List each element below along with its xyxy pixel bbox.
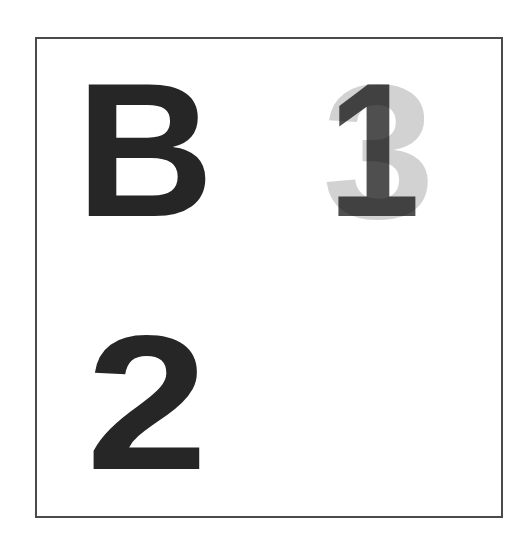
glyph-b: B xyxy=(76,42,214,257)
glyph-1: 1 xyxy=(328,42,420,257)
glyph-canvas: B 3 1 2 xyxy=(0,0,532,540)
glyph-2: 2 xyxy=(86,295,208,510)
